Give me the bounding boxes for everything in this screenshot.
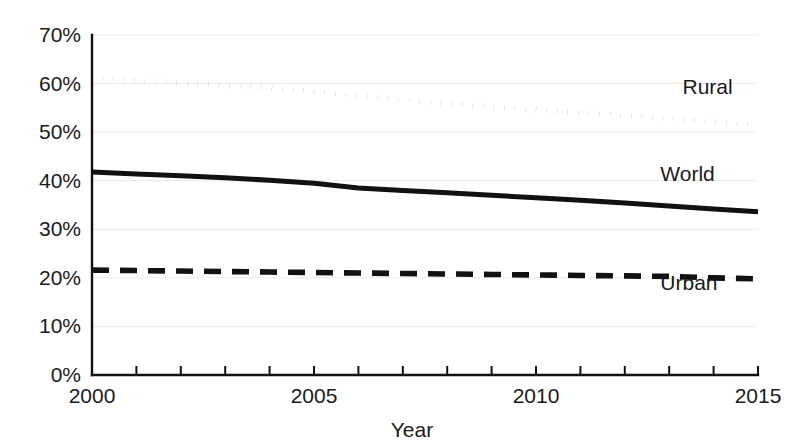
x-axis: 2000200520102015 [69, 366, 782, 407]
chart-canvas: 0%10%20%30%40%50%60%70% 2000200520102015… [0, 0, 812, 446]
x-tick-label-2010: 2010 [513, 384, 560, 407]
y-axis: 0%10%20%30%40%50%60%70% [39, 23, 92, 386]
y-tick-label-40: 40% [39, 169, 81, 192]
series-labels: RuralWorldUrban [660, 75, 732, 293]
x-tick-label-2000: 2000 [69, 384, 116, 407]
x-tick-label-2015: 2015 [735, 384, 782, 407]
y-tick-label-60: 60% [39, 72, 81, 95]
y-tick-label-20: 20% [39, 266, 81, 289]
y-tick-label-50: 50% [39, 120, 81, 143]
series-line-rural [92, 78, 758, 125]
series-label-urban: Urban [660, 271, 717, 294]
series-label-world: World [660, 162, 714, 185]
line-chart: 0%10%20%30%40%50%60%70% 2000200520102015… [0, 0, 812, 446]
gridlines [92, 35, 758, 326]
series-label-rural: Rural [683, 75, 733, 98]
series-lines [92, 78, 758, 279]
x-tick-label-2005: 2005 [291, 384, 338, 407]
series-line-world [92, 172, 758, 212]
x-axis-title: Year [391, 418, 433, 441]
y-tick-label-30: 30% [39, 217, 81, 240]
y-tick-label-10: 10% [39, 314, 81, 337]
y-tick-label-0: 0% [51, 363, 81, 386]
y-tick-label-70: 70% [39, 23, 81, 46]
